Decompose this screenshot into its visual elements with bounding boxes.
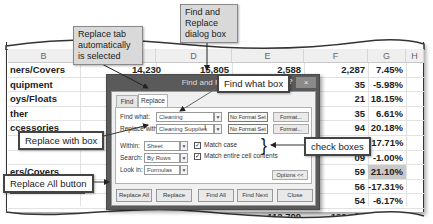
cell-g[interactable]: -17.31% (368, 180, 406, 194)
search-label: Search: (120, 153, 142, 163)
brace-icon: } (261, 136, 267, 154)
find-format-preview: No Format Set (228, 112, 268, 122)
cell-g[interactable]: -17.71% (368, 136, 406, 150)
callout-replace-with-box: Replace with box (18, 131, 104, 150)
find-next-button[interactable]: Find Next (237, 189, 273, 202)
find-what-label: Find what: (120, 112, 150, 122)
col-header-g[interactable]: G (368, 49, 406, 63)
cell-g[interactable]: 18.15% (368, 92, 406, 106)
cell-b[interactable]: ners/Covers (10, 63, 85, 77)
match-entire-checkbox[interactable]: ✓ (194, 153, 201, 160)
callout-replace-tab: Replace tab automatically is selected (73, 26, 143, 65)
tab-find[interactable]: Find (116, 95, 138, 107)
col-header-e[interactable]: E (232, 49, 304, 63)
cell-g[interactable]: -1.00% (368, 151, 406, 165)
replace-all-button[interactable]: Replace All (116, 189, 152, 202)
find-what-input[interactable]: Cleaning (156, 112, 214, 122)
look-in-label: Look in: (120, 165, 143, 175)
cell-b[interactable]: oys/Floats (10, 92, 85, 106)
search-select[interactable]: By Rows (144, 153, 180, 163)
callout-find-what-box: Find what box (217, 74, 290, 93)
tab-replace[interactable]: Replace (138, 94, 168, 107)
callout-replace-all-button: Replace All button (3, 174, 94, 193)
cell-g[interactable]: 7.45% (368, 63, 406, 77)
cell-g[interactable]: 20.18% (368, 121, 406, 135)
chevron-down-icon[interactable]: ▼ (180, 165, 188, 175)
chevron-down-icon[interactable]: ▼ (180, 141, 188, 151)
chevron-down-icon[interactable]: ▼ (214, 112, 222, 122)
cell-g-selected[interactable]: 21.10% (368, 165, 406, 179)
options-button[interactable]: Options << (272, 170, 308, 180)
replace-format-button[interactable]: Format... (273, 124, 309, 134)
col-header-d[interactable]: D (156, 49, 232, 63)
close-icon[interactable]: × (296, 77, 316, 88)
cell-g[interactable]: 6.61% (368, 107, 406, 121)
find-replace-dialog: Find and Replace ? × Find Replace Find w… (106, 74, 320, 210)
col-header-b[interactable]: B (8, 49, 80, 63)
replace-button[interactable]: Replace (156, 189, 192, 202)
dialog-body: Find Replace Find what: Cleaning ▼ No Fo… (111, 91, 316, 206)
callout-check-boxes: check boxes (304, 137, 371, 156)
cell-b[interactable]: ther (10, 107, 85, 121)
chevron-down-icon[interactable]: ▼ (180, 153, 188, 163)
within-label: Within: (120, 141, 140, 151)
replace-tab-panel: Find what: Cleaning ▼ No Format Set Form… (115, 107, 312, 184)
cell-g[interactable]: -5.98% (368, 78, 406, 92)
within-select[interactable]: Sheet (144, 141, 180, 151)
match-case-label: Match case (204, 140, 237, 150)
callout-dialog-box: Find and Replace dialog box (180, 4, 238, 43)
match-case-checkbox[interactable]: ✓ (194, 142, 201, 149)
col-header-h[interactable]: H (406, 49, 424, 63)
close-button[interactable]: Close (277, 189, 313, 202)
find-all-button[interactable]: Find All (198, 189, 234, 202)
text-cursor-icon: I (204, 123, 206, 132)
cell-b[interactable]: quipment (10, 78, 85, 92)
look-in-select[interactable]: Formulas (144, 165, 180, 175)
col-header-f[interactable]: F (304, 49, 368, 63)
replace-with-label: Replace with: (120, 124, 159, 134)
chevron-down-icon[interactable]: ▼ (214, 124, 222, 134)
find-format-button[interactable]: Format... (273, 112, 309, 122)
replace-format-preview: No Format Set (228, 124, 268, 134)
